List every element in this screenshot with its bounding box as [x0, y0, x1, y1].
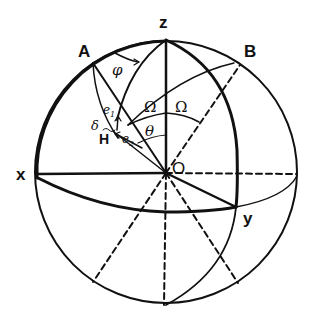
label-y: y: [243, 210, 252, 227]
label-theta: θ: [145, 124, 154, 139]
x-axis: [37, 173, 166, 174]
label-delta: δ: [91, 119, 99, 132]
dashed-lower-left: [93, 173, 166, 282]
x-neg-dashed: [166, 173, 297, 174]
label-e2: e2: [122, 133, 134, 148]
label-phi: φ: [112, 63, 123, 78]
line-ob-dashed: [166, 65, 240, 173]
label-b: B: [244, 43, 256, 60]
meridian-zy-lower: [166, 207, 236, 305]
label-omega-right: Ω: [175, 100, 187, 115]
label-x: x: [16, 166, 25, 183]
label-a: A: [78, 43, 90, 60]
label-h: H: [99, 132, 109, 146]
label-z: z: [159, 14, 168, 31]
sphere-drawing: [0, 0, 314, 322]
hidden-lines: [93, 65, 297, 305]
e1-arrow: [117, 117, 118, 130]
dashed-lower-mid: [164, 173, 166, 305]
label-e1: e1: [103, 104, 115, 119]
meridian-z-h: [117, 40, 166, 120]
equator-front: [38, 178, 236, 212]
sphere-diagram: z A B x y O H φ Ω Ω θ δ e1 e2: [0, 0, 314, 322]
equator-back-right: [236, 176, 297, 207]
label-omega-left: Ω: [144, 100, 156, 115]
label-origin: O: [172, 160, 185, 177]
origin-dot: [164, 171, 169, 176]
